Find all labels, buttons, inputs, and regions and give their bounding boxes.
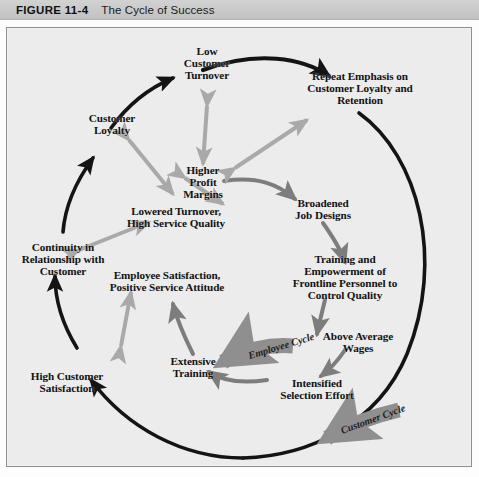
figure-title: The Cycle of Success [101,4,214,16]
node-line: Low Customer Turnover [184,46,230,82]
arrow-profit-to-jobdesigns [224,180,295,199]
node-customer-loyalty: Customer Loyalty [89,113,135,137]
node-line: Lowered Turnover, High Service Quality [127,206,225,230]
figure-page: FIGURE 11-4 The Cycle of Success [0,0,479,477]
customer-cycle-banner-shape [327,410,399,438]
node-higher-profit-margins: Higher Profit Margins [183,165,223,201]
node-line: Training and Empowerment of Frontline Pe… [283,254,407,302]
node-broadened-job-designs: Broadened Job Designs [295,198,351,222]
node-line: Above Average Wages [323,331,393,355]
node-line: Customer Loyalty [89,113,135,137]
figure-header: FIGURE 11-4 The Cycle of Success [0,0,479,20]
node-training-empowerment: Training and Empowerment of Frontline Pe… [283,254,407,302]
node-continuity-relationship: Continuity in Relationship with Customer [22,242,105,278]
node-intensified-selection: Intensified Selection Effort [280,378,353,402]
node-employee-satisfaction: Employee Satisfaction, Positive Service … [110,270,224,294]
arrow-continuity-to-loyalty [63,158,93,232]
node-line: Extensive Training [170,356,215,380]
link-loyalty-lowered-turnover [129,140,173,194]
link-turnover-profit [203,106,207,164]
node-extensive-training: Extensive Training [170,356,215,380]
node-line: Intensified Selection Effort [280,378,353,402]
node-above-average-wages: Above Average Wages [323,331,393,355]
node-line: Continuity in Relationship with Customer [22,242,105,278]
arrow-outer-bottom-to-satisfaction [91,380,243,458]
node-line: Higher Profit Margins [183,165,223,201]
node-line: Repeat Emphasis on Customer Loyalty and … [307,71,412,107]
node-line: Broadened Job Designs [295,198,351,222]
diagram-canvas: Low Customer Turnover Repeat Emphasis on… [7,28,469,464]
figure-frame: Low Customer Turnover Repeat Emphasis on… [6,27,472,467]
arrow-satisfaction-to-continuity [55,276,77,348]
node-lowered-turnover: Lowered Turnover, High Service Quality [127,206,225,230]
link-repeat-profit [235,120,307,168]
node-high-customer-satisfaction: High Customer Satisfaction [31,371,103,395]
node-repeat-emphasis: Repeat Emphasis on Customer Loyalty and … [307,71,412,107]
arrow-selection-to-extensive-training [209,372,267,382]
arrow-extensive-training-to-satisfaction [173,304,193,354]
link-highsat-empsat [121,292,131,346]
employee-cycle-banner-shape [223,346,293,362]
figure-number: FIGURE 11-4 [16,4,88,16]
node-line: High Customer Satisfaction [31,371,103,395]
node-line: Employee Satisfaction, Positive Service … [110,270,224,294]
node-low-customer-turnover: Low Customer Turnover [184,46,230,82]
arrow-training-to-wages [317,300,325,334]
